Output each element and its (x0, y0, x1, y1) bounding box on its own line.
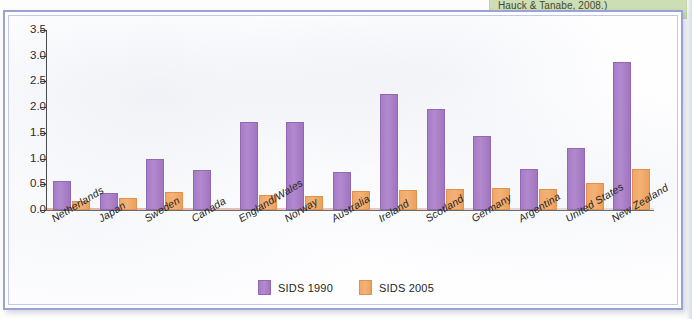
bar-sids-1990 (567, 148, 585, 210)
bar-sids-1990 (427, 109, 445, 210)
figure-frame: 0.00.51.01.52.02.53.03.5 NetherlandsJapa… (3, 10, 683, 310)
y-axis-tick-label: 2.5 (18, 74, 46, 86)
y-axis-tick-label: 3.0 (18, 49, 46, 61)
bar-group (240, 30, 281, 210)
bar-group (427, 30, 468, 210)
bar-group (100, 30, 141, 210)
legend-item: SIDS 1990 (258, 280, 333, 295)
bar-group (193, 30, 234, 210)
bar-group (380, 30, 421, 210)
y-axis-tick-label: 1.5 (18, 126, 46, 138)
bar-group (333, 30, 374, 210)
bar-sids-1990 (380, 94, 398, 210)
legend-label: SIDS 2005 (379, 282, 434, 294)
figure-inner: 0.00.51.01.52.02.53.03.5 NetherlandsJapa… (8, 15, 678, 305)
legend-label: SIDS 1990 (278, 282, 333, 294)
plot-area (47, 30, 654, 210)
chart-legend: SIDS 1990SIDS 2005 (9, 280, 678, 295)
y-axis-tick-label: 0.0 (18, 203, 46, 215)
y-axis-tick-label: 2.0 (18, 100, 46, 112)
bar-group (146, 30, 187, 210)
page-edge-shadow (686, 0, 692, 319)
scanned-page: Hauck & Tanabe, 2008.) 0.00.51.01.52.02.… (0, 0, 692, 319)
bar-group (520, 30, 561, 210)
legend-item: SIDS 2005 (359, 280, 434, 295)
bar-sids-1990 (286, 122, 304, 210)
y-axis-tick-label: 3.5 (18, 23, 46, 35)
bar-group (53, 30, 94, 210)
legend-swatch-sids-2005 (359, 280, 372, 295)
bar-sids-1990 (240, 122, 258, 210)
bar-group (473, 30, 514, 210)
y-axis-tick-label: 1.0 (18, 152, 46, 164)
legend-swatch-sids-1990 (258, 280, 271, 295)
bar-chart: 0.00.51.01.52.02.53.03.5 NetherlandsJapa… (9, 16, 678, 305)
bar-group (567, 30, 608, 210)
y-axis-tick-label: 0.5 (18, 177, 46, 189)
bar-sids-1990 (473, 136, 491, 210)
